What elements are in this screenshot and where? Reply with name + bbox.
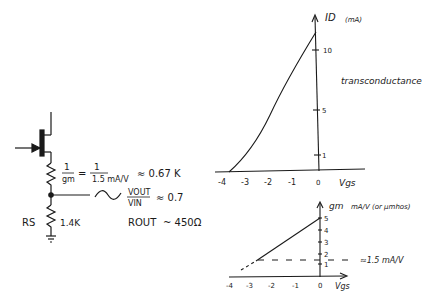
rs-value: 1.4K — [60, 218, 81, 228]
gain-formula: VOUT VIN ≈ 0.7 — [127, 188, 183, 208]
ytick-5: 5 — [322, 107, 326, 115]
gm-unit-alt: (or μmhos) — [372, 203, 411, 211]
gm-ytick-4: 4 — [324, 227, 329, 235]
xtick-n2: -2 — [264, 178, 272, 187]
gain-den: VIN — [128, 199, 142, 208]
gm-xtick-n2: -2 — [268, 282, 275, 290]
gm-xtick-n3: -3 — [246, 282, 253, 290]
gm-formula: 1 gm = 1 1.5 mA/V ≈ 0.67 K — [62, 162, 181, 184]
gm-line-extension — [241, 261, 256, 270]
bottom-chart-labels: gm mA/V (or μmhos) 5 4 3 2 1 ≈1.5 mA/V -… — [226, 201, 411, 291]
gm-line — [256, 218, 320, 261]
formula-den: gm — [62, 175, 75, 184]
vgs-label-top: Vgs — [339, 178, 356, 188]
transfer-curve — [229, 32, 316, 172]
gm-unit: mA/V — [351, 203, 371, 211]
gm-ytick-3: 3 — [324, 239, 328, 247]
gm-xtick-n1: -1 — [292, 282, 299, 290]
id-unit: (mA) — [345, 16, 362, 24]
xtick-n4: -4 — [218, 178, 226, 187]
formula-rhs-den: 1.5 mA/V — [92, 175, 129, 184]
ac-source-icon — [95, 191, 121, 200]
gm-label: gm — [329, 201, 344, 211]
vgs-label-bottom: Vgs — [335, 282, 350, 291]
id-axis — [315, 17, 319, 171]
gm-ytick-5: 5 — [324, 215, 328, 223]
vgs-axis-bottom — [229, 276, 346, 277]
rout-value: ~ 450Ω — [163, 217, 202, 228]
rout-label: ROUT — [128, 217, 157, 228]
gm-xtick-n4: -4 — [226, 282, 234, 290]
formula-approx: ≈ 0.67 K — [137, 168, 181, 179]
gm-vs-vgs-chart — [229, 202, 355, 279]
gate-arrow-icon — [32, 144, 40, 152]
gm-annotation: ≈1.5 mA/V — [360, 256, 404, 265]
xtick-0: 0 — [316, 179, 320, 187]
transconductance-label: transconductance — [341, 76, 422, 86]
gain-approx: ≈ 0.7 — [156, 192, 183, 203]
id-vs-vgs-chart — [215, 15, 365, 172]
sketch-canvas: 1 gm = 1 1.5 mA/V ≈ 0.67 K VOUT VIN ≈ 0.… — [0, 0, 445, 308]
gm-ytick-2: 2 — [324, 251, 328, 259]
gm-xtick-0: 0 — [318, 282, 322, 290]
id-label: ID — [325, 12, 336, 23]
gain-num: VOUT — [128, 188, 150, 197]
xtick-n3: -3 — [241, 178, 249, 187]
vgs-axis — [215, 169, 365, 172]
gm-ytick-1: 1 — [324, 261, 328, 269]
ytick-1: 1 — [322, 152, 326, 160]
top-chart-labels: ID (mA) 10 5 1 -4 -3 -2 -1 0 Vgs transco… — [218, 12, 422, 188]
formula-eq: = — [78, 168, 86, 179]
resistor-rs-icon — [47, 205, 55, 236]
jfet-channel-icon — [40, 130, 44, 156]
resistor-1-over-gm-icon — [47, 163, 55, 195]
formula-num: 1 — [64, 162, 70, 172]
rs-label: RS — [22, 217, 35, 228]
formula-rhs-num: 1 — [94, 162, 100, 172]
ytick-10: 10 — [323, 47, 332, 55]
xtick-n1: -1 — [288, 178, 296, 187]
